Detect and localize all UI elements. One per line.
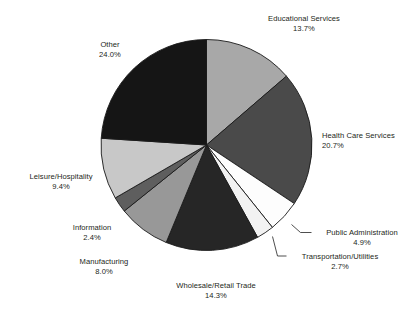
slice-label-transportation-utilities: Transportation/Utilities 2.7% [284,252,396,271]
slice-label-value: 2.4% [47,233,137,243]
pie-slice-group [101,40,312,251]
slice-label-value: 9.4% [8,182,114,192]
slice-label-value: 4.9% [310,238,414,248]
slice-label-value: 24.0% [72,50,148,60]
slice-label-name: Leisure/Hospitality [8,172,114,182]
slice-label-name: Public Administration [310,228,414,238]
slice-label-value: 2.7% [284,262,396,272]
slice-label-value: 14.3% [152,291,280,301]
slice-label-name: Educational Services [240,14,368,24]
slice-label-name: Wholesale/Retail Trade [152,281,280,291]
slice-label-leisure-hospitality: Leisure/Hospitality 9.4% [8,172,114,191]
pie-chart: Educational Services 13.7% Health Care S… [0,0,417,314]
slice-label-educational-services: Educational Services 13.7% [240,14,368,33]
slice-label-health-care-services: Health Care Services 20.7% [322,131,417,150]
slice-label-name: Other [72,40,148,50]
slice-label-name: Information [47,223,137,233]
slice-label-value: 8.0% [56,267,152,277]
slice-label-other: Other 24.0% [72,40,148,59]
slice-label-wholesale-retail-trade: Wholesale/Retail Trade 14.3% [152,281,280,300]
slice-label-manufacturing: Manufacturing 8.0% [56,257,152,276]
slice-label-public-administration: Public Administration 4.9% [310,228,414,247]
slice-label-information: Information 2.4% [47,223,137,242]
slice-label-name: Manufacturing [56,257,152,267]
slice-label-name: Transportation/Utilities [284,252,396,262]
slice-label-value: 20.7% [322,141,417,151]
leader-line-public-administration [292,225,312,233]
slice-label-name: Health Care Services [322,131,417,141]
slice-label-value: 13.7% [240,24,368,34]
